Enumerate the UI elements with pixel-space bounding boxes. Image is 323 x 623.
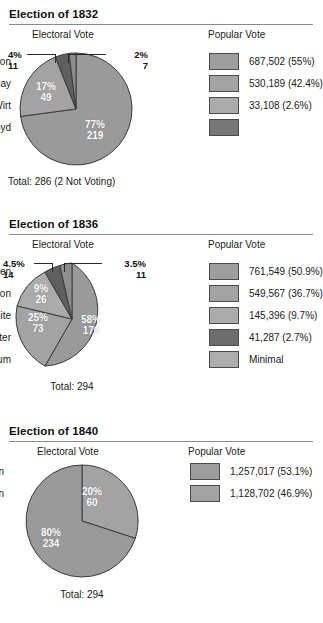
legend-value-harrison-1840: 1,257,017 (53.1%) xyxy=(230,466,312,477)
legend-swatch-harrison xyxy=(209,285,239,302)
pie-label-jackson-val: 219 xyxy=(87,130,104,141)
election-block-1832: Election of 1832 Electoral Vote Popular … xyxy=(0,8,323,198)
legend-name-floyd: Floyd xyxy=(0,122,11,133)
pie-label-harrison-pct: 25% xyxy=(28,312,48,323)
legend-swatch-mangum xyxy=(209,351,239,368)
pie-callout-line-mangum-1836 xyxy=(64,263,102,264)
legend-swatch-floyd xyxy=(209,119,239,136)
pie-callout-line-wirt-1832 xyxy=(27,54,55,55)
pie-label-white-1836: 9% 26 xyxy=(27,284,55,305)
column-header-electoral-1836: Electoral Vote xyxy=(32,239,94,250)
legend-swatch-harrison-1840 xyxy=(190,463,220,480)
column-header-electoral-1840: Electoral Vote xyxy=(37,446,99,457)
pie-callout-tick-floyd-1832 xyxy=(68,54,69,63)
legend-value-clay: 530,189 (42.4%) xyxy=(249,78,323,89)
pie-label-clay-val: 49 xyxy=(40,92,51,103)
column-header-popular-1832: Popular Vote xyxy=(208,29,265,40)
pie-label-white-pct: 9% xyxy=(34,283,48,294)
pie-callout-tick-mangum-1836 xyxy=(64,263,65,272)
pie-label-clay-1832: 17% 49 xyxy=(30,82,62,103)
pie-callout-tick-wirt-1832 xyxy=(55,54,56,63)
column-header-popular-1836: Popular Vote xyxy=(208,239,265,250)
legend-name-jackson: Jackson xyxy=(0,56,11,67)
legend-value-harrison: 549,567 (36.7%) xyxy=(249,288,323,299)
legend-swatch-van-buren-1840 xyxy=(190,485,220,502)
pie-label-vanburen-val-1840: 60 xyxy=(86,497,97,508)
pie-label-vanburen-pct: 58% xyxy=(81,314,101,325)
legend-name-wirt: Wirt xyxy=(0,100,11,111)
pie-callout-tick-webster-1836 xyxy=(52,263,53,272)
legend-name-harrison: Harrison xyxy=(0,288,11,299)
pie-label-vanburen-pct-1840: 20% xyxy=(82,486,102,497)
column-header-popular-1840: Popular Vote xyxy=(188,446,245,457)
pie-label-harrison-val-1840: 234 xyxy=(43,538,60,549)
pie-label-harrison-1836: 25% 73 xyxy=(22,313,54,334)
pie-callout-floyd-1832: 2% 7 xyxy=(108,49,148,71)
legend-value-wirt: 33,108 (2.6%) xyxy=(249,100,312,111)
page-title-1832: Election of 1832 xyxy=(9,8,98,20)
page-title-1836: Election of 1836 xyxy=(9,218,98,230)
pie-callout-mangum-pct: 3.5% xyxy=(124,258,146,269)
pie-callout-floyd-val: 7 xyxy=(143,60,148,71)
pie-label-vanburen-1836: 58% 170 xyxy=(74,315,108,336)
legend-value-webster: 41,287 (2.7%) xyxy=(249,332,312,343)
title-divider-1836 xyxy=(9,234,313,235)
pie-total-1832: Total: 286 (2 Not Voting) xyxy=(8,176,168,187)
pie-total-1836: Total: 294 xyxy=(14,381,130,392)
legend-value-van-buren: 761,549 (50.9%) xyxy=(249,266,323,277)
title-divider-1832 xyxy=(9,24,313,25)
pie-chart-1840 xyxy=(24,463,140,579)
legend-swatch-webster xyxy=(209,329,239,346)
legend-name-white: White xyxy=(0,310,11,321)
pie-label-clay-pct: 17% xyxy=(36,81,56,92)
legend-swatch-wirt xyxy=(209,97,239,114)
legend-swatch-white xyxy=(209,307,239,324)
legend-swatch-clay xyxy=(209,75,239,92)
legend-swatch-jackson xyxy=(209,53,239,70)
pie-callout-mangum-1836: 3.5% 11 xyxy=(104,258,146,280)
legend-name-mangum: Mangum xyxy=(0,354,11,365)
legend-name-webster: Webster xyxy=(0,332,11,343)
pie-callout-mangum-val: 11 xyxy=(136,269,146,280)
legend-name-van-buren-1840: Van Buren xyxy=(0,488,4,499)
pie-label-vanburen-1840: 20% 60 xyxy=(75,487,109,508)
pie-callout-line-webster-1836 xyxy=(34,263,52,264)
pie-svg-1840 xyxy=(24,463,140,579)
title-divider-1840 xyxy=(9,441,313,442)
column-header-electoral-1832: Electoral Vote xyxy=(32,29,94,40)
legend-name-van-buren: Van Buren xyxy=(0,266,11,277)
legend-value-white: 145,396 (9.7%) xyxy=(249,310,317,321)
pie-total-1840: Total: 294 xyxy=(24,589,140,600)
legend-value-mangum: Minimal xyxy=(249,354,283,365)
pie-label-white-val: 26 xyxy=(35,294,46,305)
election-block-1836: Election of 1836 Electoral Vote Popular … xyxy=(0,218,323,408)
pie-label-jackson-pct: 77% xyxy=(85,119,105,130)
pie-callout-floyd-pct: 2% xyxy=(134,49,148,60)
pie-callout-line-floyd-1832 xyxy=(68,54,106,55)
legend-name-clay: Clay xyxy=(0,78,11,89)
pie-label-harrison-val: 73 xyxy=(32,323,43,334)
legend-value-van-buren-1840: 1,128,702 (46.9%) xyxy=(230,488,312,499)
pie-label-harrison-1840: 80% 234 xyxy=(34,528,68,549)
pie-label-vanburen-val: 170 xyxy=(83,325,100,336)
legend-name-harrison-1840: Harrison xyxy=(0,466,4,477)
election-block-1840: Election of 1840 Electoral Vote Popular … xyxy=(0,425,323,615)
legend-swatch-van-buren xyxy=(209,263,239,280)
pie-label-harrison-pct-1840: 80% xyxy=(41,527,61,538)
pie-label-jackson-1832: 77% 219 xyxy=(78,120,112,141)
page-title-1840: Election of 1840 xyxy=(9,425,98,437)
legend-value-jackson: 687,502 (55%) xyxy=(249,56,315,67)
